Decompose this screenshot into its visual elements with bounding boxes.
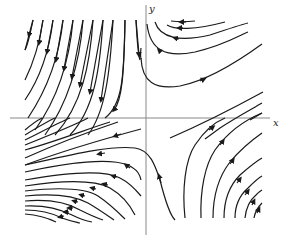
x-axis-label: x — [273, 117, 279, 128]
phase-portrait — [0, 0, 282, 239]
trajectories — [25, 20, 263, 223]
y-axis-label: y — [149, 3, 155, 14]
